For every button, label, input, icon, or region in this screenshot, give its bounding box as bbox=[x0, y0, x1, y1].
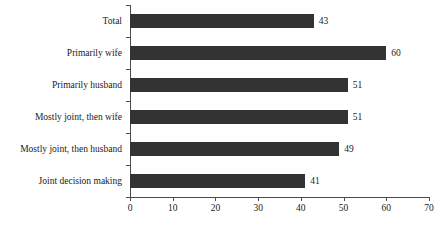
x-axis-tick-label: 20 bbox=[202, 203, 228, 214]
y-axis-tick bbox=[126, 133, 130, 134]
bar bbox=[130, 110, 348, 124]
x-axis-line bbox=[130, 197, 430, 198]
category-label: Primarily wife bbox=[0, 46, 126, 60]
x-axis-tick-label: 70 bbox=[416, 203, 442, 214]
y-axis-tick bbox=[126, 37, 130, 38]
x-axis-tick bbox=[258, 197, 259, 201]
x-axis-tick-label: 0 bbox=[117, 203, 143, 214]
bar bbox=[130, 174, 305, 188]
x-axis-tick bbox=[130, 197, 131, 201]
x-axis-tick-label: 10 bbox=[160, 203, 186, 214]
y-axis-tick bbox=[126, 165, 130, 166]
bar-value-label: 51 bbox=[353, 78, 363, 92]
category-label: Mostly joint, then husband bbox=[0, 142, 126, 156]
y-axis-line bbox=[130, 5, 131, 198]
bar-value-label: 41 bbox=[310, 174, 320, 188]
x-axis-tick-label: 40 bbox=[288, 203, 314, 214]
y-axis-tick bbox=[126, 69, 130, 70]
category-label: Primarily husband bbox=[0, 78, 126, 92]
x-axis-tick bbox=[386, 197, 387, 201]
category-label: Total bbox=[0, 14, 126, 28]
category-label: Mostly joint, then wife bbox=[0, 110, 126, 124]
bar bbox=[130, 78, 348, 92]
bar-value-label: 51 bbox=[353, 110, 363, 124]
bar-value-label: 43 bbox=[319, 14, 329, 28]
bar bbox=[130, 46, 386, 60]
x-axis-tick bbox=[215, 197, 216, 201]
x-axis-tick bbox=[344, 197, 345, 201]
y-axis-tick bbox=[126, 101, 130, 102]
y-axis-tick bbox=[126, 5, 130, 6]
category-label: Joint decision making bbox=[0, 174, 126, 188]
x-axis-tick-label: 60 bbox=[373, 203, 399, 214]
bar-value-label: 60 bbox=[391, 46, 401, 60]
bar bbox=[130, 142, 339, 156]
bar-chart: TotalPrimarily wifePrimarily husbandMost… bbox=[0, 0, 446, 228]
bar bbox=[130, 14, 314, 28]
x-axis-tick bbox=[301, 197, 302, 201]
x-axis-tick bbox=[173, 197, 174, 201]
x-axis-tick-label: 30 bbox=[245, 203, 271, 214]
bar-value-label: 49 bbox=[344, 142, 354, 156]
x-axis-tick-label: 50 bbox=[331, 203, 357, 214]
x-axis-tick bbox=[429, 197, 430, 201]
